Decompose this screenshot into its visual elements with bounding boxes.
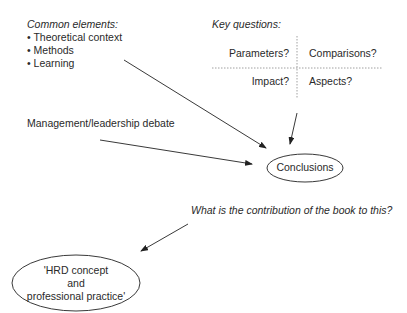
- hrd-label-line2: and: [12, 277, 140, 290]
- conclusions-label: Conclusions: [267, 161, 343, 174]
- hrd-label-line3: professional practice': [12, 290, 140, 303]
- arrow-questions-to-conclusions: [290, 113, 297, 144]
- arrow-common-to-conclusions: [124, 60, 266, 148]
- question-aspects: Aspects?: [309, 75, 352, 88]
- contribution-question: What is the contribution of the book to …: [191, 204, 392, 217]
- common-elements-heading: Common elements:: [27, 18, 118, 31]
- common-element-item: • Methods: [27, 44, 74, 57]
- question-impact: Impact?: [221, 75, 289, 88]
- common-element-item: • Theoretical context: [27, 31, 122, 44]
- arrow-debate-to-conclusions: [100, 140, 252, 164]
- common-element-item: • Learning: [27, 57, 74, 70]
- question-parameters: Parameters?: [221, 47, 289, 60]
- management-debate-label: Management/leadership debate: [27, 117, 175, 130]
- arrow-contribution-to-hrd: [141, 224, 188, 251]
- hrd-label-line1: 'HRD concept: [12, 264, 140, 277]
- question-comparisons: Comparisons?: [309, 47, 377, 60]
- key-questions-heading: Key questions:: [212, 18, 281, 31]
